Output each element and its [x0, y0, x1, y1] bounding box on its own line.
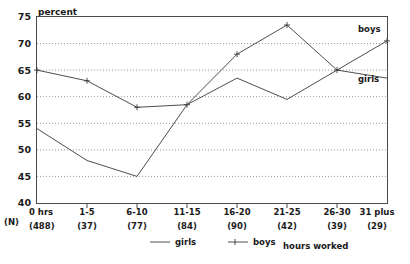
- y-tick-label: 55: [18, 118, 31, 129]
- y-tick-label: 45: [18, 171, 31, 182]
- x-category-label: 31 plus: [360, 207, 395, 217]
- series-end-label-boys: boys: [358, 24, 381, 34]
- x-n-value: (29): [367, 221, 387, 231]
- x-axis-title: hours worked: [283, 241, 348, 251]
- chart-background: [0, 0, 410, 264]
- x-category-label: 1-5: [79, 207, 94, 217]
- legend-label-boys: boys: [253, 237, 276, 247]
- x-n-value: (37): [77, 221, 97, 231]
- x-category-label: 21-25: [273, 207, 300, 217]
- line-chart: percent 4045505560657075 0 hrs1-56-1011-…: [0, 0, 410, 264]
- x-n-value: (42): [277, 221, 297, 231]
- y-tick-label: 65: [18, 65, 31, 76]
- x-category-label: 0 hrs: [29, 207, 53, 217]
- series-end-label-girls: girls: [358, 74, 379, 84]
- n-axis-label: (N): [4, 217, 19, 227]
- y-tick-label: 50: [18, 144, 32, 155]
- chart-container: percent 4045505560657075 0 hrs1-56-1011-…: [0, 0, 410, 264]
- x-category-label: 6-10: [126, 207, 147, 217]
- x-n-value: (84): [177, 221, 197, 231]
- x-n-value: (39): [327, 221, 347, 231]
- y-tick-label: 70: [18, 38, 32, 49]
- x-category-label: 11-15: [173, 207, 200, 217]
- x-category-label: 16-20: [223, 207, 250, 217]
- y-tick-label: 60: [18, 91, 32, 102]
- y-axis-title: percent: [38, 7, 78, 17]
- legend-label-girls: girls: [175, 237, 196, 247]
- x-n-value: (77): [127, 221, 147, 231]
- x-n-value: (488): [29, 221, 55, 231]
- y-tick-label: 75: [18, 11, 31, 22]
- x-category-label: 26-30: [323, 207, 350, 217]
- x-n-value: (90): [227, 221, 247, 231]
